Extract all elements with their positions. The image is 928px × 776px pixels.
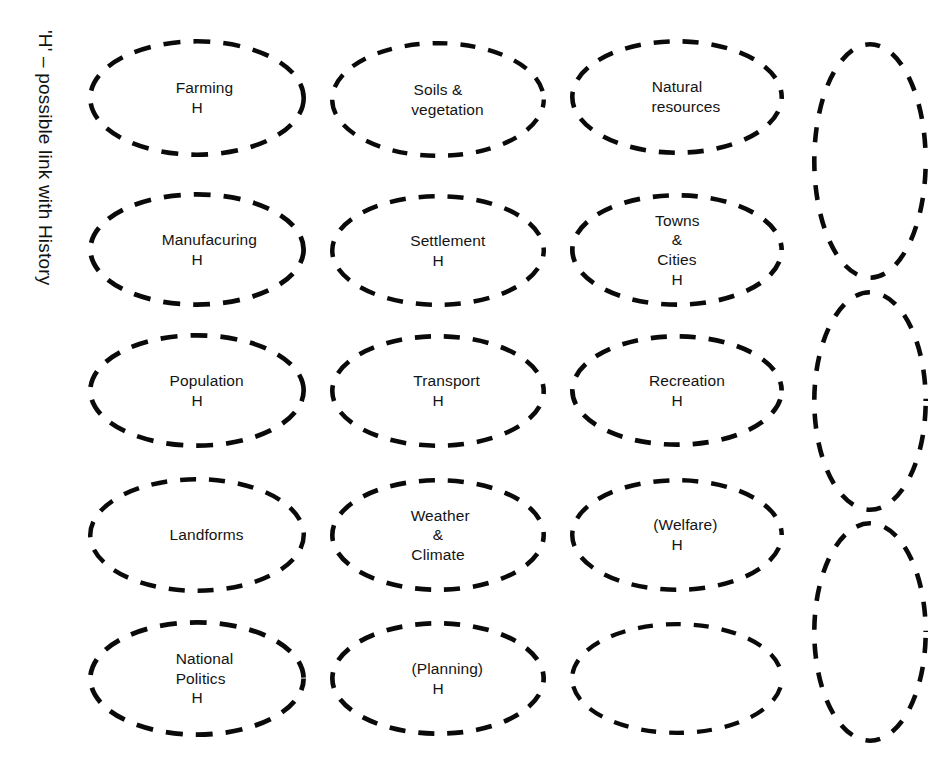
history-marker: H [671, 391, 682, 411]
ellipse-node-population: PopulationH [88, 333, 306, 448]
history-marker: H [671, 270, 682, 290]
history-marker: H [191, 250, 202, 270]
history-marker: H [671, 535, 682, 555]
node-label-group: TransportH [405, 371, 472, 410]
node-label-group: Weather & Climate [401, 506, 475, 565]
node-label: Settlement [410, 231, 466, 251]
node-label: Farming [176, 78, 219, 98]
node-label: (Welfare) [653, 515, 701, 535]
ellipse-node-towns-cities: Towns & CitiesH [570, 193, 784, 307]
dashed-ellipse-outline [570, 622, 784, 735]
node-label-group: SettlementH [400, 231, 475, 270]
ellipse-node-planning: (Planning)H [330, 621, 546, 736]
node-label: Natural resources [651, 77, 702, 116]
ellipse-node-national-politics: National PoliticsH [88, 620, 306, 737]
node-label: Landforms [170, 525, 225, 545]
ellipse-node-tall-1 [812, 42, 928, 280]
history-marker: H [191, 688, 202, 708]
history-marker: H [191, 98, 202, 118]
node-label-group: Soils & vegetation [402, 80, 475, 119]
ellipse-node-welfare: (Welfare)H [570, 478, 784, 592]
dashed-ellipse-outline [812, 290, 928, 512]
node-label: Recreation [649, 371, 705, 391]
ellipse-node-recreation: RecreationH [570, 334, 784, 447]
history-marker: H [432, 679, 443, 699]
ellipse-node-empty-r5c3 [570, 622, 784, 735]
node-label-group: Natural resources [643, 77, 712, 116]
ellipse-node-tall-2 [812, 290, 928, 512]
node-label-group: (Planning)H [402, 659, 474, 698]
history-marker: H [432, 391, 443, 411]
ellipse-node-natural: Natural resources [570, 39, 784, 155]
node-label: National Politics [176, 649, 219, 688]
node-label-group: RecreationH [639, 371, 715, 410]
ellipse-node-weather: Weather & Climate [330, 478, 546, 592]
node-label: Soils & vegetation [411, 80, 465, 119]
node-label-group: ManufacuringH [149, 230, 244, 269]
node-label-group: (Welfare)H [645, 515, 709, 554]
ellipse-node-manufacturing: ManufacuringH [88, 192, 306, 307]
node-label: Weather & Climate [411, 506, 466, 565]
node-label: (Planning) [411, 659, 464, 679]
node-label-group: National PoliticsH [168, 649, 226, 708]
ellipse-node-landforms: Landforms [88, 477, 306, 593]
history-marker: H [432, 251, 443, 271]
node-label-group: Towns & CitiesH [647, 211, 706, 289]
node-label: Manufacuring [162, 230, 232, 250]
node-label: Transport [413, 371, 462, 391]
ellipse-node-settlement: SettlementH [330, 194, 546, 307]
history-link-legend: 'H' – possible link with History [28, 30, 62, 430]
node-label: Population [170, 371, 225, 391]
node-label-group: FarmingH [168, 78, 226, 117]
history-marker: H [191, 391, 202, 411]
node-label: Towns & Cities [655, 211, 699, 270]
ellipse-node-soils: Soils & vegetation [330, 41, 546, 158]
ellipse-node-farming: FarmingH [88, 39, 306, 157]
node-label-group: Landforms [160, 525, 234, 545]
dashed-ellipse-outline [812, 521, 928, 743]
node-label-group: PopulationH [160, 371, 234, 410]
ellipse-node-transport: TransportH [330, 334, 546, 448]
ellipse-node-tall-3 [812, 521, 928, 743]
dashed-ellipse-outline [812, 42, 928, 280]
